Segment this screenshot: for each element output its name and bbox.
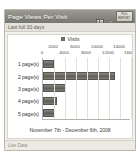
legend-swatch-visits	[61, 37, 65, 41]
page-title: Page Views Per Visit	[8, 13, 96, 20]
x-tick-2000: 2000	[48, 44, 58, 49]
pencil-icon[interactable]	[106, 13, 114, 21]
x-tick-16000: 16000	[124, 50, 133, 55]
bar-1[interactable]	[43, 60, 54, 68]
gridline	[54, 58, 55, 119]
x-tick-14000: 14000	[113, 44, 125, 49]
full-report-button[interactable]: FULL REPORT	[116, 11, 133, 22]
page-views-per-visit-widget: Page Views Per Visit FULL REPORT	[0, 0, 140, 159]
plot-area	[42, 58, 130, 120]
chart-legend: Visits	[8, 36, 132, 42]
chart-panel: Visits 020004000600080001000012000140001…	[7, 34, 133, 139]
x-tick-0: 0	[41, 50, 43, 55]
gridline	[65, 58, 66, 119]
legend-label-visits: Visits	[68, 36, 80, 42]
widget-footer: Live Data	[5, 140, 135, 150]
x-axis-tick-labels: 0200040006000800010000120001400016000	[42, 44, 133, 57]
date-scope-label: Last full 30 days	[8, 24, 44, 30]
title-bar-actions: FULL REPORT	[96, 11, 133, 22]
widget-title-bar: Page Views Per Visit FULL REPORT	[5, 10, 135, 23]
date-scope-bar: Last full 30 days	[5, 23, 135, 32]
category-label-1: 1 page(s)	[18, 60, 41, 68]
y-axis-category-labels: 1 page(s)2 page(s)3 page(s)4 page(s)5 pa…	[8, 58, 41, 120]
full-report-line2: REPORT	[119, 17, 131, 20]
x-tick-6000: 6000	[70, 44, 80, 49]
category-label-3: 3 page(s)	[18, 85, 41, 93]
table-icon[interactable]	[96, 13, 104, 21]
category-label-5: 5 page(s)	[18, 110, 41, 118]
category-label-4: 4 page(s)	[18, 97, 41, 105]
gridline	[109, 58, 110, 119]
gridline	[76, 58, 77, 119]
chart-date-annotation: November 7th - December 6th, 2008	[8, 127, 132, 133]
category-label-2: 2 page(s)	[18, 73, 41, 81]
x-tick-4000: 4000	[59, 50, 69, 55]
gridline	[120, 58, 121, 119]
bar-5[interactable]	[43, 109, 55, 117]
live-data-link[interactable]: Live Data	[8, 143, 27, 148]
gridline	[131, 58, 132, 119]
x-tick-8000: 8000	[81, 50, 91, 55]
bar-4[interactable]	[43, 97, 57, 105]
gridline	[87, 58, 88, 119]
x-tick-10000: 10000	[91, 44, 103, 49]
x-tick-12000: 12000	[102, 50, 114, 55]
gridline	[98, 58, 99, 119]
